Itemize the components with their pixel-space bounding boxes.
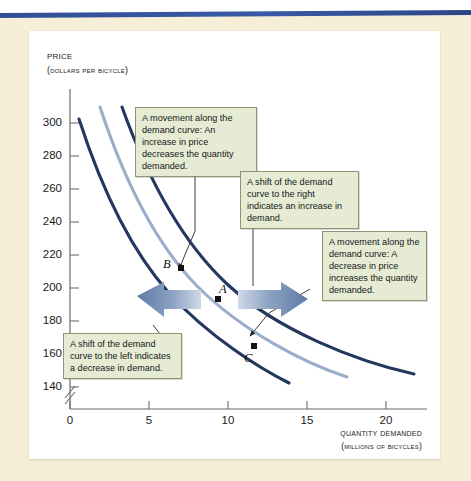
plot-area: Price (Dollars per bicycle) Quantity dem… <box>29 31 440 459</box>
figure-card: Price (Dollars per bicycle) Quantity dem… <box>29 31 440 459</box>
shift-arrow-left <box>137 282 201 317</box>
y-tick-label: 180 <box>32 314 62 326</box>
x-tick-label: 20 <box>374 414 398 426</box>
y-tick-label: 160 <box>32 347 62 359</box>
y-tick-label: 220 <box>32 248 62 260</box>
point-marker-b <box>178 265 184 271</box>
x-tick-label: 5 <box>137 414 161 426</box>
x-axis-title: Quantity demanded <box>282 427 422 438</box>
y-axis-title: Price <box>47 49 72 61</box>
point-label-c: C <box>244 351 252 366</box>
y-axis-subtitle: (Dollars per bicycle) <box>47 65 128 75</box>
x-tick-label: 10 <box>216 414 240 426</box>
x-tick-label: 0 <box>58 414 82 426</box>
point-marker-c <box>251 343 257 349</box>
y-tick-label: 240 <box>32 215 62 227</box>
y-tick-label: 300 <box>32 116 62 128</box>
callout-movement-down: A movement along the demand curve: A dec… <box>322 231 427 301</box>
shift-arrow-right <box>238 282 308 317</box>
x-axis-ticks <box>70 401 386 409</box>
point-label-a: A <box>219 282 227 297</box>
point-label-b: B <box>163 257 171 272</box>
figure-page: Price (Dollars per bicycle) Quantity dem… <box>0 0 471 481</box>
x-axis-subtitle: (Millions of bicycles) <box>282 441 422 451</box>
y-tick-label: 200 <box>32 281 62 293</box>
callout-shift-left: A shift of the demand curve to the left … <box>63 333 182 379</box>
callout-shift-right: A shift of the demand curve to the right… <box>240 171 359 229</box>
x-tick-label: 15 <box>295 414 319 426</box>
y-tick-label: 140 <box>32 380 62 392</box>
y-tick-label: 280 <box>32 149 62 161</box>
y-tick-label: 260 <box>32 182 62 194</box>
callout-movement-up: A movement along the demand curve: An in… <box>135 107 257 177</box>
